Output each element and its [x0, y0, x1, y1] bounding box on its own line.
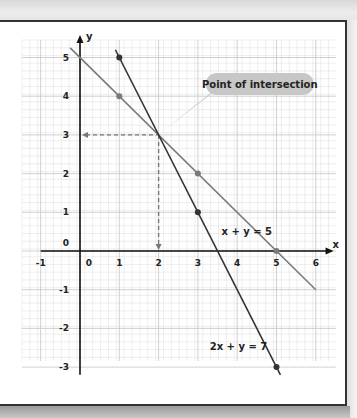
x-tick-label: 1 [116, 258, 122, 268]
y-tick-label: 2 [63, 169, 69, 179]
y-tick-label: 0 [63, 238, 69, 248]
x-axis-label: x [333, 239, 340, 250]
y-axis-label: y [86, 31, 93, 42]
series-point [195, 171, 201, 177]
x-tick-label: 4 [234, 258, 240, 268]
y-tick-label: 1 [63, 207, 69, 217]
y-tick-label: 3 [63, 130, 69, 140]
x-tick-label: 0 [86, 258, 92, 268]
series-lines: x + y = 52x + y = 7 [70, 48, 316, 375]
x-tick-label: 3 [195, 258, 201, 268]
chart: xy -10123456543210-1-2-3 x + y = 52x + y… [0, 0, 357, 418]
series-point [116, 55, 122, 61]
series-point [195, 209, 201, 215]
series-label-1: x + y = 5 [221, 226, 272, 237]
x-tick-label: 6 [313, 258, 319, 268]
y-tick-label: 5 [63, 53, 69, 63]
y-tick-label: -1 [59, 285, 69, 295]
series-point [116, 93, 122, 99]
series-point [274, 248, 280, 254]
annotations: Point of intersection [162, 73, 318, 132]
y-tick-label: 4 [63, 91, 69, 101]
x-tick-label: 5 [273, 258, 279, 268]
y-axis-arrow [77, 35, 84, 43]
x-tick-label: -1 [36, 258, 46, 268]
series-label-2: 2x + y = 7 [210, 341, 268, 352]
x-tick-label: 2 [155, 258, 161, 268]
y-tick-label: -2 [59, 323, 69, 333]
callout-text: Point of intersection [202, 79, 318, 90]
series-point [274, 364, 280, 370]
intersection-guides [82, 132, 162, 250]
y-tick-label: -3 [59, 362, 69, 372]
